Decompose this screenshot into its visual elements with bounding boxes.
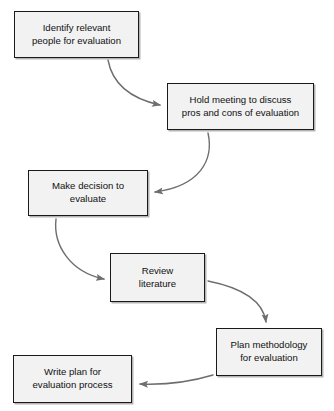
flow-edge xyxy=(56,219,104,279)
flow-node-label: Make decision to evaluate xyxy=(48,180,128,205)
flow-node-label: Plan methodology for evaluation xyxy=(227,339,312,364)
flow-edge xyxy=(208,281,266,322)
flowchart-canvas: Identify relevant people for evaluation … xyxy=(0,0,334,411)
flow-node-hold-meeting[interactable]: Hold meeting to discuss pros and cons of… xyxy=(167,83,314,130)
flow-node-label: Review literature xyxy=(135,265,180,290)
flow-node-plan-methodology[interactable]: Plan methodology for evaluation xyxy=(216,328,322,376)
flow-edge xyxy=(108,60,160,105)
flow-node-write-plan[interactable]: Write plan for evaluation process xyxy=(13,355,132,403)
flow-node-review-literature[interactable]: Review literature xyxy=(110,253,205,302)
flow-node-identify-people[interactable]: Identify relevant people for evaluation xyxy=(14,11,139,58)
flow-edge xyxy=(140,375,213,384)
flow-node-make-decision[interactable]: Make decision to evaluate xyxy=(28,170,148,216)
flow-node-label: Identify relevant people for evaluation xyxy=(28,22,125,47)
flow-node-label: Write plan for evaluation process xyxy=(29,366,117,391)
flow-edge xyxy=(155,133,209,192)
flow-node-label: Hold meeting to discuss pros and cons of… xyxy=(178,94,303,119)
